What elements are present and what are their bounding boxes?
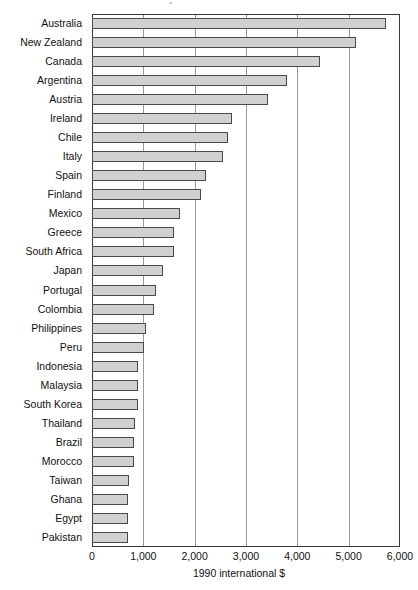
bar: [92, 342, 144, 353]
category-label: South Korea: [0, 395, 82, 414]
bar-chart: AustraliaNew ZealandCanadaArgentinaAustr…: [0, 0, 418, 590]
category-label: Chile: [0, 128, 82, 147]
bar: [92, 380, 138, 391]
bar-row: [92, 71, 400, 90]
x-axis-title-text: 1990 international $: [193, 567, 285, 579]
category-axis-labels: AustraliaNew ZealandCanadaArgentinaAustr…: [0, 14, 86, 547]
image-speck: [169, 2, 172, 4]
bar-row: [92, 147, 400, 166]
category-label: Pakistan: [0, 528, 82, 547]
category-label: Ireland: [0, 109, 82, 128]
x-axis-tick-labels: 01,0002,0003,0004,0005,0006,000: [0, 549, 418, 565]
category-label: Spain: [0, 166, 82, 185]
bar: [92, 132, 228, 143]
category-label: Japan: [0, 261, 82, 280]
category-label: Argentina: [0, 71, 82, 90]
bar-row: [92, 242, 400, 261]
category-label: South Africa: [0, 242, 82, 261]
bar: [92, 437, 134, 448]
bar: [92, 361, 138, 372]
bar-row: [92, 14, 400, 33]
bar: [92, 37, 356, 48]
bar: [92, 246, 174, 257]
bar: [92, 304, 154, 315]
x-axis-title: 1990 international $: [0, 567, 418, 579]
category-label: New Zealand: [0, 33, 82, 52]
bar: [92, 56, 320, 67]
bar-row: [92, 395, 400, 414]
category-label: Canada: [0, 52, 82, 71]
bar-row: [92, 281, 400, 300]
bar-row: [92, 90, 400, 109]
category-label: Mexico: [0, 204, 82, 223]
x-tick-label: 4,000: [284, 549, 310, 563]
category-label: Egypt: [0, 509, 82, 528]
bar-row: [92, 338, 400, 357]
bar-row: [92, 490, 400, 509]
bar: [92, 399, 138, 410]
category-label: Taiwan: [0, 471, 82, 490]
category-label: Italy: [0, 147, 82, 166]
bar: [92, 532, 128, 543]
bar-row: [92, 261, 400, 280]
bar: [92, 170, 206, 181]
x-tick-label: 6,000: [387, 549, 413, 563]
bar-row: [92, 185, 400, 204]
bar: [92, 475, 129, 486]
bar: [92, 208, 180, 219]
bar: [92, 285, 156, 296]
category-label: Malaysia: [0, 376, 82, 395]
x-tick-label: 3,000: [233, 549, 259, 563]
bar: [92, 94, 268, 105]
x-tick-label: 2,000: [182, 549, 208, 563]
category-label: Philippines: [0, 319, 82, 338]
category-label: Greece: [0, 223, 82, 242]
bar-row: [92, 357, 400, 376]
bar: [92, 494, 128, 505]
bar-row: [92, 223, 400, 242]
bar-row: [92, 509, 400, 528]
category-label: Peru: [0, 338, 82, 357]
bar-row: [92, 414, 400, 433]
bar: [92, 113, 232, 124]
bar: [92, 189, 201, 200]
bar-row: [92, 433, 400, 452]
x-tick-label: 5,000: [336, 549, 362, 563]
category-label: Morocco: [0, 452, 82, 471]
bar-row: [92, 452, 400, 471]
bar: [92, 18, 386, 29]
category-label: Brazil: [0, 433, 82, 452]
bar: [92, 513, 128, 524]
category-label: Finland: [0, 185, 82, 204]
bar: [92, 456, 134, 467]
bar-row: [92, 376, 400, 395]
bar-row: [92, 319, 400, 338]
bar-row: [92, 166, 400, 185]
category-label: Colombia: [0, 300, 82, 319]
category-label: Indonesia: [0, 357, 82, 376]
bar-row: [92, 52, 400, 71]
x-tick-label: 0: [89, 549, 95, 563]
x-tick-label: 1,000: [130, 549, 156, 563]
bar-series: [92, 14, 400, 547]
bar-row: [92, 109, 400, 128]
category-label: Portugal: [0, 281, 82, 300]
bar-row: [92, 471, 400, 490]
bar-row: [92, 300, 400, 319]
bar-row: [92, 128, 400, 147]
category-label: Ghana: [0, 490, 82, 509]
bar: [92, 323, 146, 334]
bar-row: [92, 204, 400, 223]
bar: [92, 151, 223, 162]
category-label: Austria: [0, 90, 82, 109]
category-label: Australia: [0, 14, 82, 33]
bar: [92, 418, 135, 429]
bar-row: [92, 33, 400, 52]
bar: [92, 75, 287, 86]
bar-row: [92, 528, 400, 547]
category-label: Thailand: [0, 414, 82, 433]
bar: [92, 265, 163, 276]
bar: [92, 227, 174, 238]
